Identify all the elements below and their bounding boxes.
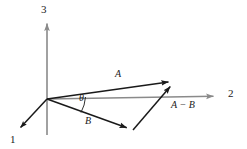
axis-3-label: 3 [41,4,47,15]
angle-theta-label: θ [79,93,84,103]
vector-a-line [47,82,169,99]
vector-diagram: 3 2 1 A B A − B θ [0,0,247,149]
vector-b-label: B [85,116,91,126]
axis-1-label: 1 [10,134,16,145]
vector-a-minus-b-line [133,87,170,131]
axis-2-label: 2 [228,88,234,99]
vector-a-label: A [115,69,121,79]
diagram-canvas [0,0,247,149]
axis-1-line [21,99,48,128]
vector-a-minus-b-label: A − B [171,100,195,110]
